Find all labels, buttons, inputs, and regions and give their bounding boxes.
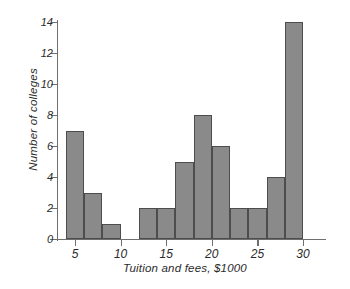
histogram-bar xyxy=(102,224,120,240)
histogram-bar xyxy=(175,162,193,240)
x-tick-label: 10 xyxy=(114,247,127,261)
histogram-bars xyxy=(0,0,350,239)
histogram-bar xyxy=(267,177,285,239)
x-tick-mark xyxy=(75,239,76,246)
x-tick-mark xyxy=(303,239,304,246)
histogram-bar xyxy=(248,208,266,239)
histogram-bar xyxy=(212,146,230,239)
histogram-bar xyxy=(194,115,212,239)
histogram-bar xyxy=(66,131,84,240)
x-tick-label: 5 xyxy=(72,247,79,261)
histogram-bar xyxy=(139,208,157,239)
x-tick-mark xyxy=(212,239,213,246)
histogram-bar xyxy=(285,22,303,239)
histogram-bar xyxy=(157,208,175,239)
histogram-bar xyxy=(230,208,248,239)
x-axis-line xyxy=(50,239,326,240)
x-tick-label: 15 xyxy=(160,247,173,261)
x-tick-mark xyxy=(166,239,167,246)
x-tick-label: 30 xyxy=(296,247,309,261)
x-tick-label: 25 xyxy=(251,247,264,261)
histogram-bar xyxy=(84,193,102,240)
x-tick-label: 20 xyxy=(205,247,218,261)
x-tick-mark xyxy=(121,239,122,246)
histogram-figure: Number of colleges 02468101214 510152025… xyxy=(0,0,350,289)
x-tick-mark xyxy=(257,239,258,246)
x-axis-label: Tuition and fees, $1000 xyxy=(55,262,315,274)
